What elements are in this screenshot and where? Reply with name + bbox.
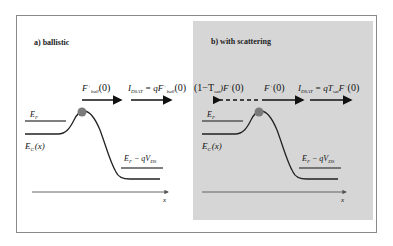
panel-a-diagram: F+ball(0) IDSAT = qF+ball(0) EF EC(x) EF… xyxy=(24,82,186,204)
panel-b-ec-label: EC(x) xyxy=(201,141,222,152)
panel-b-electron-dot xyxy=(255,108,264,117)
panel-a-flux-label: F+ball(0) xyxy=(81,82,110,94)
panel-b-flux-label: F+(0) xyxy=(263,82,285,94)
panel-a-drain-label: EF − qVDS xyxy=(123,154,157,164)
panel-b-backscatter-label: (1−Tsat)F+(0) xyxy=(194,82,243,94)
panel-a-ec-label: EC(x) xyxy=(24,141,45,152)
panel-b-diagram: (1−Tsat)F+(0) F+(0) IDSAT = qTsatF+(0) E… xyxy=(194,82,359,204)
panel-a-current-label: IDSAT = qF+ball(0) xyxy=(127,82,186,94)
panel-a-ef-label: EF xyxy=(29,110,39,120)
panel-b-drain-label: EF − qVDS xyxy=(301,154,335,164)
panel-b-current-label: IDSAT = qTsatF+(0) xyxy=(297,82,359,94)
panel-b-x-label: x xyxy=(340,196,345,204)
panel-a-electron-dot xyxy=(78,108,87,117)
band-diagram: F+ball(0) IDSAT = qF+ball(0) EF EC(x) EF… xyxy=(0,0,393,246)
panel-b-ef-label: EF xyxy=(206,110,216,120)
panel-a-x-label: x xyxy=(162,196,167,204)
